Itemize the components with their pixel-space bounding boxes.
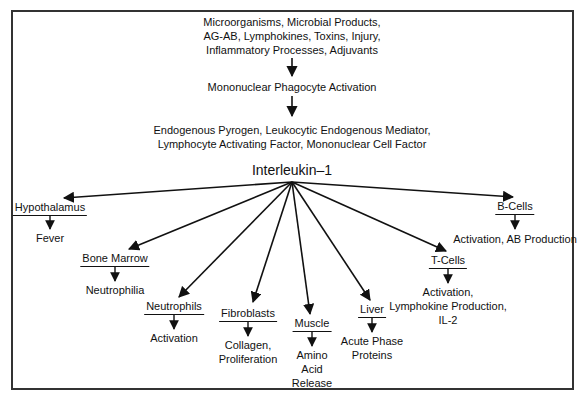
arrow-layer (0, 0, 585, 397)
arrow-to-fibroblasts (253, 182, 292, 302)
node-hypothalamus: Hypothalamus (13, 201, 87, 216)
node-muscle: Muscle (293, 317, 332, 332)
interleukin-1-hub: Interleukin–1 (252, 162, 332, 178)
effect-fever: Fever (36, 231, 64, 245)
effect-collagen-proliferation: Collagen, Proliferation (219, 338, 278, 366)
effect-ab-production: Activation, AB Production (453, 232, 577, 246)
node-bone-marrow: Bone Marrow (80, 252, 149, 267)
node-liver: Liver (358, 303, 386, 318)
arrow-to-b-cells (292, 182, 513, 197)
effect-t-cell-activation: Activation, Lymphokine Production, IL-2 (389, 285, 507, 327)
sources-text: Microorganisms, Microbial Products, AG-A… (203, 15, 380, 57)
effect-acute-phase-proteins: Acute Phase Proteins (341, 334, 403, 362)
arrow-to-neutrophils (179, 182, 292, 297)
node-b-cells: B-Cells (495, 200, 534, 215)
arrow-to-muscle (292, 182, 310, 314)
effect-amino-acid-release: Amino Acid Release (292, 348, 332, 390)
effect-neutrophilia: Neutrophilia (86, 283, 145, 297)
node-fibroblasts: Fibroblasts (219, 307, 277, 322)
mediators-text: Endogenous Pyrogen, Leukocytic Endogenou… (153, 123, 430, 151)
phagocyte-activation-text: Mononuclear Phagocyte Activation (208, 80, 377, 94)
node-neutrophils: Neutrophils (144, 300, 204, 315)
node-t-cells: T-Cells (429, 254, 467, 269)
effect-activation: Activation (150, 331, 198, 345)
